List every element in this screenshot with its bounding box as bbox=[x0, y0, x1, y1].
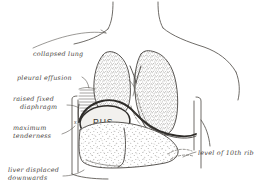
label-maximum-tenderness-line1: maximum bbox=[13, 124, 47, 132]
shoulder-right bbox=[163, 28, 236, 72]
figure-root: PUS bbox=[0, 0, 273, 190]
rib-cage-right-lower bbox=[201, 120, 210, 146]
neck-line-left bbox=[108, 2, 113, 29]
chest-wall-left-outer bbox=[72, 96, 77, 174]
leader-collapsed-lung bbox=[33, 32, 106, 48]
label-liver-displaced-line1: liver displaced bbox=[8, 166, 59, 174]
neck-line-right bbox=[158, 2, 163, 28]
flank-right bbox=[236, 72, 239, 100]
anatomical-diagram: PUS bbox=[0, 0, 273, 190]
costal-margin-left bbox=[72, 174, 108, 179]
leader-maximum-tenderness bbox=[62, 126, 75, 134]
tenderness-x-marker: x bbox=[74, 119, 77, 125]
label-raised-fixed-diaphragm-line1: raised fixed bbox=[13, 95, 54, 103]
leader-pleural-effusion bbox=[82, 77, 89, 88]
label-level-of-10th-rib: level of 10th rib bbox=[198, 149, 254, 157]
diaphragm-left-attachment bbox=[78, 104, 79, 122]
label-raised-fixed-diaphragm-line2: diaphragm bbox=[20, 103, 57, 111]
leader-raised-diaphragm bbox=[67, 105, 79, 108]
label-pleural-effusion: pleural effusion bbox=[17, 74, 72, 82]
label-liver-displaced-line2: downwards bbox=[8, 174, 48, 182]
label-collapsed-lung: collapsed lung bbox=[33, 50, 83, 58]
leader-tenth-rib bbox=[183, 152, 196, 157]
effusion-meniscus bbox=[79, 88, 95, 90]
label-maximum-tenderness-line2: tenderness bbox=[13, 132, 52, 140]
chest-wall-right-outer bbox=[196, 97, 201, 168]
